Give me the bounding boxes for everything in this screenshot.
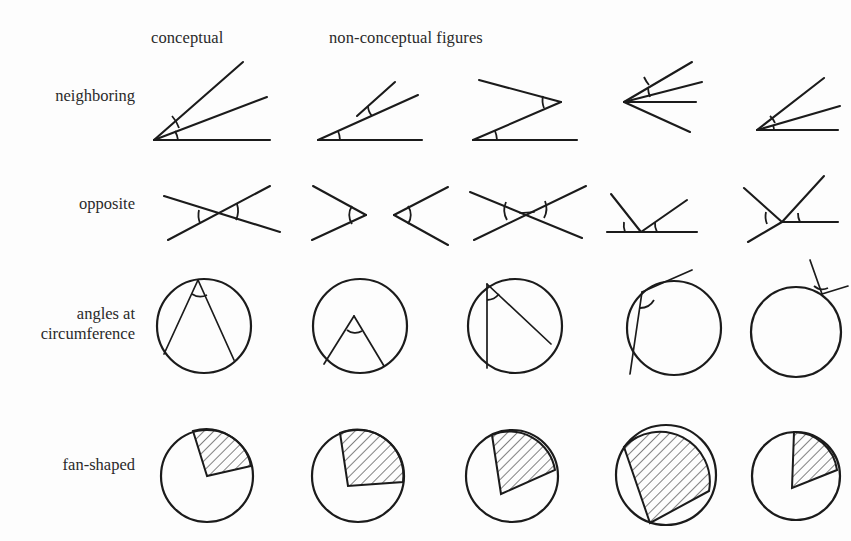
figure-fan-conceptual	[155, 420, 265, 530]
figure-circumference-ray-outside	[618, 262, 738, 382]
figure-neighboring-zigzag	[465, 58, 605, 150]
figure-circumference-conceptual	[152, 272, 264, 380]
figure-opposite-three-rays	[740, 164, 851, 252]
figure-fan-narrow-sector	[460, 420, 570, 530]
column-header-non-conceptual: non-conceptual figures	[329, 28, 483, 48]
figure-circumference-apex-inside	[308, 272, 420, 380]
figure-fan-large-sector	[608, 415, 728, 533]
row-label-angles-at-circumference: angles at circumference	[0, 304, 135, 344]
figure-sheet: conceptual non-conceptual figures neighb…	[0, 0, 851, 541]
row-label-neighboring: neighboring	[0, 86, 135, 106]
figure-neighboring-fan-four-rays	[616, 52, 766, 152]
figure-neighboring-conceptual	[148, 58, 288, 150]
figure-opposite-on-baseline	[605, 170, 755, 250]
row-label-fan-shaped: fan-shaped	[0, 455, 135, 475]
figure-opposite-separated-vs	[308, 170, 458, 250]
figure-opposite-offset-crossing	[462, 170, 607, 250]
figure-opposite-conceptual	[152, 170, 292, 250]
figure-fan-apex-offset	[306, 420, 416, 530]
figure-neighboring-compressed	[752, 68, 851, 148]
figure-circumference-both-rays-outside	[752, 258, 851, 380]
figure-neighboring-split-vertices	[310, 58, 450, 150]
figure-circumference-vertical-chord	[463, 272, 575, 380]
row-label-opposite: opposite	[0, 194, 135, 214]
figure-fan-small-sector	[748, 422, 851, 530]
column-header-conceptual: conceptual	[151, 28, 223, 48]
